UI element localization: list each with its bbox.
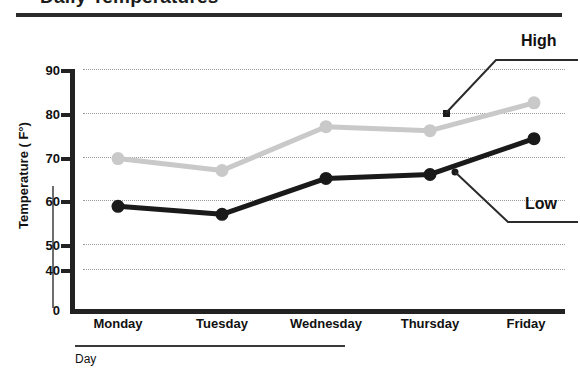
x-tick-label-wednesday: Wednesday	[290, 316, 362, 331]
x-axis-tick-labels: Monday Tuesday Wednesday Thursday Friday	[73, 316, 565, 338]
x-tick-label-thursday: Thursday	[401, 316, 460, 331]
x-tick-label-tuesday: Tuesday	[196, 316, 248, 331]
y-tick-label-50: 50	[22, 238, 60, 253]
chart-title-clip: Daily Temperatures	[0, 0, 580, 8]
y-tick-label-0: 0	[22, 303, 60, 318]
gridline-60	[83, 200, 565, 201]
gridline-70	[83, 157, 565, 158]
y-tick-mark-80	[61, 113, 70, 117]
temperature-line-chart: Daily Temperatures Temperature ( F°) 90 …	[0, 0, 580, 381]
x-tick-label-friday: Friday	[506, 316, 545, 331]
x-axis-title: Day	[75, 352, 96, 366]
y-tick-mark-90	[61, 69, 70, 73]
callout-label-low: Low	[525, 195, 557, 213]
gridline-50	[83, 244, 565, 245]
callout-label-high: High	[521, 32, 557, 50]
plot-area	[73, 60, 565, 311]
gridline-80	[83, 113, 565, 114]
y-tick-label-60: 60	[22, 194, 60, 209]
x-axis-title-rule	[75, 345, 345, 347]
x-tick-label-monday: Monday	[93, 316, 142, 331]
y-tick-label-40: 40	[22, 263, 60, 278]
gridline-40	[83, 269, 565, 270]
page-title: Daily Temperatures	[0, 0, 580, 8]
gridline-90	[83, 69, 565, 70]
y-tick-mark-40	[61, 269, 70, 273]
y-tick-mark-60	[61, 200, 70, 204]
y-tick-mark-70	[61, 157, 70, 161]
y-tick-mark-50	[61, 244, 70, 248]
y-tick-label-70: 70	[22, 151, 60, 166]
y-tick-label-80: 80	[22, 107, 60, 122]
title-underline-rule	[16, 13, 562, 17]
y-tick-label-90: 90	[22, 63, 60, 78]
y-axis-tick-labels: 90 80 70 60 50 40 0	[14, 0, 60, 381]
